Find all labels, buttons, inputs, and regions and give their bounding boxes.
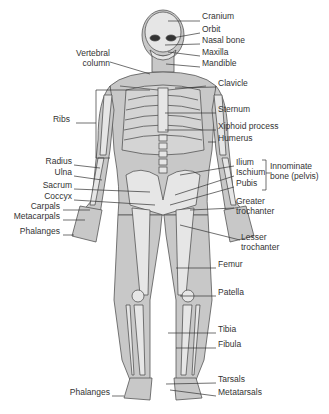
label-ischium: Ischium: [236, 167, 265, 177]
label-lesser-troch: Lessertrochanter: [241, 232, 279, 252]
label-maxilla: Maxilla: [202, 47, 228, 57]
label-tarsals: Tarsals: [218, 374, 245, 384]
label-metatarsals: Metatarsals: [218, 387, 262, 397]
label-ulna: Ulna: [55, 167, 72, 177]
label-cranium: Cranium: [202, 11, 234, 21]
label-humerus: Humerus: [218, 133, 252, 143]
label-phalanges-hand: Phalanges: [20, 226, 60, 236]
label-orbit: Orbit: [202, 24, 220, 34]
label-nasal: Nasal bone: [202, 35, 245, 45]
label-mandible: Mandible: [202, 58, 237, 68]
label-vertebral: Vertebralcolumn: [76, 48, 110, 68]
label-sternum: Sternum: [218, 104, 250, 114]
label-phalanges-foot: Phalanges: [70, 387, 110, 397]
label-innominate-bone: Innominatebone (pelvis): [270, 161, 319, 181]
label-patella: Patella: [218, 287, 244, 297]
label-pubis: Pubis: [236, 178, 257, 188]
label-metacarpals: Metacarpals: [14, 211, 60, 221]
label-clavicle: Clavicle: [218, 78, 248, 88]
label-ilium: Ilium: [236, 157, 254, 167]
label-femur: Femur: [218, 259, 243, 269]
label-xiphoid: Xiphoid process: [218, 121, 278, 131]
label-carpals: Carpals: [31, 201, 60, 211]
label-sacrum: Sacrum: [43, 180, 72, 190]
label-coccyx: Coccyx: [44, 191, 72, 201]
label-greater-troch: Greatertrochanter: [236, 196, 274, 216]
label-tibia: Tibia: [218, 324, 236, 334]
label-fibula: Fibula: [218, 339, 241, 349]
label-ribs: Ribs: [53, 114, 70, 124]
label-radius: Radius: [46, 156, 72, 166]
